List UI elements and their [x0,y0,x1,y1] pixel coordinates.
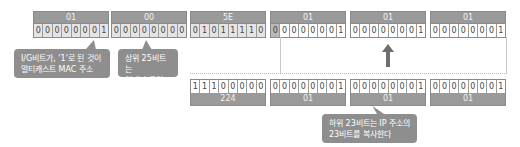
mac-byte-6: 01 0 0 0 0 0 0 0 1 [430,11,506,38]
ip-byte-dec: 01 [430,93,506,106]
bit: 0 [407,80,416,93]
bit: 1 [200,24,209,37]
bit: 1 [210,80,219,93]
ip-byte-dec: 01 [270,93,346,106]
bit: 1 [200,80,209,93]
mac-byte-4: 01 0 0 0 0 0 0 0 1 [270,11,346,38]
bit: 0 [112,24,121,37]
mac-byte-bits: 0 0 0 0 0 0 0 1 [430,24,506,38]
bit: 1 [219,24,228,37]
bit: 0 [431,24,440,37]
bit: 0 [290,80,299,93]
bit: 0 [389,24,398,37]
bit: 0 [398,24,407,37]
callout-upper25-line2: 언제나 동일 [125,75,171,86]
mac-byte-hex: 01 [270,11,346,24]
mac-byte-bits: 0 1 0 1 1 1 1 0 [190,24,266,38]
bit: 0 [72,24,81,37]
bit: 0 [34,24,43,37]
bit: 0 [487,24,496,37]
fixed-bit: 0 [271,24,280,37]
bit: 0 [379,80,388,93]
bit: 0 [360,24,369,37]
mac-byte-bits: 0 0 0 0 0 0 0 1 [350,24,426,38]
bit: 0 [309,80,318,93]
bit: 0 [168,24,177,37]
bit: 0 [178,24,186,37]
bit: 0 [121,24,130,37]
bit: 0 [238,80,247,93]
mac-byte-bits: 0 0 0 0 0 0 0 0 [111,24,187,38]
ip-byte-bits: 0 0 0 0 0 0 0 1 [430,79,506,93]
bit: 0 [370,24,379,37]
bit: 1 [497,24,505,37]
ip-byte-dec: 224 [190,93,266,106]
ip-byte-bits: 1 1 1 0 0 0 0 0 [190,79,266,93]
bit: 0 [431,80,440,93]
bit: 1 [191,80,200,93]
bit: 0 [131,24,140,37]
mac-byte-3: 5E 0 1 0 1 1 1 1 0 [190,11,266,38]
mac-byte-hex: 01 [350,11,426,24]
bit: 0 [440,24,449,37]
ip-byte-bits: 0 0 0 0 0 0 0 1 [350,79,426,93]
bit: 1 [247,24,256,37]
mac-byte-5: 01 0 0 0 0 0 0 0 1 [350,11,426,38]
bit: 0 [257,24,265,37]
bit: 0 [299,80,308,93]
mac-byte-1: 01 0 0 0 0 0 0 0 1 [33,11,109,38]
bit: 0 [459,24,468,37]
bit: 1 [417,80,425,93]
bit: 0 [360,80,369,93]
bit: 0 [150,24,159,37]
mac-byte-bits: 0 0 0 0 0 0 0 1 [33,24,109,38]
bit: 1 [497,80,505,93]
mac-byte-2: 00 0 0 0 0 0 0 0 0 [111,11,187,38]
copy-region-left-line [280,37,281,73]
bit: 1 [229,24,238,37]
bit: 0 [407,24,416,37]
bit: 0 [299,24,308,37]
bit: 0 [370,80,379,93]
mac-byte-hex: 01 [33,11,109,24]
mac-byte-hex: 00 [111,11,187,24]
mac-byte-hex: 01 [430,11,506,24]
ip-byte-2: 0 0 0 0 0 0 0 1 01 [270,79,346,106]
bit: 1 [417,24,425,37]
bit: 1 [337,24,345,37]
bit: 0 [210,24,219,37]
bit: 0 [191,24,200,37]
bit: 0 [229,80,238,93]
bit: 0 [450,80,459,93]
bit: 0 [280,80,289,93]
ip-byte-bits: 0 0 0 0 0 0 0 1 [270,79,346,93]
bit: 0 [290,24,299,37]
bit: 0 [469,80,478,93]
bit: 0 [140,24,149,37]
bit: 0 [478,80,487,93]
callout-upper25-line1: 상위 25비트는 [125,53,171,75]
bit: 0 [351,24,360,37]
up-arrow-shaft [386,52,390,67]
bit: 0 [159,24,168,37]
bit: 0 [469,24,478,37]
callout-lower23-line2: 23비트를 복사한다 [329,129,410,140]
up-arrow-icon [382,44,394,52]
bit: 1 [238,24,247,37]
bit: 0 [450,24,459,37]
bit: 0 [43,24,52,37]
bit: 0 [440,80,449,93]
bit: 0 [280,24,289,37]
bit: 0 [459,80,468,93]
bit: 0 [62,24,71,37]
bit: 0 [318,24,327,37]
bit: 0 [327,24,336,37]
callout-ig-bit-line2: 멀티캐스트 MAC 주소 [21,64,103,75]
bit: 0 [53,24,62,37]
mac-byte-bits: 0 0 0 0 0 0 0 1 [270,24,346,38]
callout-lower23: 하위 23비트는 IP 주소의 23비트를 복사한다 [322,114,417,143]
bit: 0 [271,80,280,93]
mac-byte-hex: 5E [190,11,266,24]
bit: 0 [247,80,256,93]
bit: 0 [389,80,398,93]
